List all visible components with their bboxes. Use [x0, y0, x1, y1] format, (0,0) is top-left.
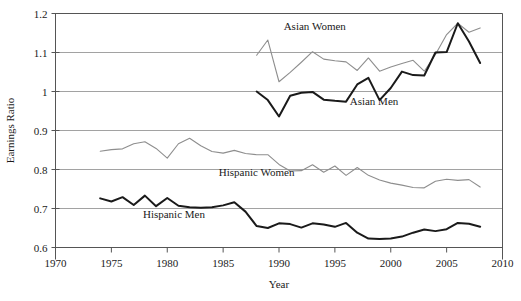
series-line-hispanic-women	[100, 138, 480, 188]
y-tick-label-0.6: 0.6	[34, 242, 48, 254]
y-axis-title: Earnings Ratio	[4, 97, 16, 163]
y-tick-label-1.1: 1.1	[34, 47, 48, 59]
x-tick-label-1975: 1975	[100, 257, 123, 269]
x-tick-label-1985: 1985	[212, 257, 235, 269]
x-tick-label-1990: 1990	[268, 257, 291, 269]
chart-canvas: 0.60.70.80.911.11.2 19701975198019851990…	[0, 0, 521, 301]
x-axis-title: Year	[269, 278, 290, 290]
earnings-ratio-chart: 0.60.70.80.911.11.2 19701975198019851990…	[0, 0, 521, 301]
data-series-group	[100, 23, 480, 239]
y-tick-label-1.2: 1.2	[34, 8, 48, 20]
x-tick-label-1970: 1970	[45, 257, 68, 269]
series-label-hispanic-women: Hispanic Women	[219, 166, 295, 178]
x-tick-label-2000: 2000	[380, 257, 403, 269]
series-label-hispanic-men: Hispanic Men	[143, 208, 206, 220]
x-tick-label-1995: 1995	[324, 257, 347, 269]
y-tick-label-0.8: 0.8	[34, 164, 48, 176]
series-label-asian-men: Asian Men	[350, 95, 399, 107]
x-tick-label-1980: 1980	[156, 257, 179, 269]
gridlines-group	[56, 14, 503, 248]
y-tick-label-0.7: 0.7	[34, 203, 48, 215]
x-tick-label-2010: 2010	[492, 257, 515, 269]
axis-ticks-group	[52, 14, 503, 253]
x-tick-label-2005: 2005	[436, 257, 459, 269]
y-tick-label-1: 1	[42, 86, 48, 98]
x-tick-labels-group: 197019751980198519901995200020052010	[45, 257, 515, 269]
y-tick-label-0.9: 0.9	[34, 125, 48, 137]
y-tick-labels-group: 0.60.70.80.911.11.2	[34, 8, 48, 254]
series-label-asian-women: Asian Women	[284, 20, 347, 32]
